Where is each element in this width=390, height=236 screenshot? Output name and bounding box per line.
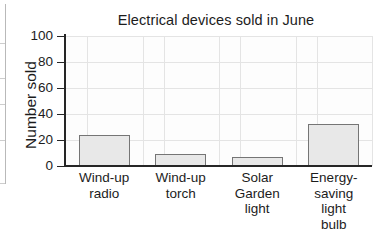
- y-tick-mark: [57, 62, 64, 64]
- x-axis-label-line: Wind-up: [143, 170, 220, 186]
- bar: [308, 124, 359, 166]
- gridline-vertical: [164, 36, 165, 166]
- page-border-tick: [0, 104, 5, 105]
- x-axis-label-line: light: [219, 201, 296, 217]
- gridline-vertical: [240, 36, 241, 166]
- x-axis-label-line: bulb: [296, 217, 373, 233]
- x-axis-label: Energy-savinglightbulb: [296, 170, 373, 232]
- chart-title: Electrical devices sold in June: [60, 12, 372, 28]
- y-tick-label: 100: [0, 28, 53, 43]
- x-axis-label: Wind-uptorch: [143, 170, 220, 201]
- y-axis-line: [64, 34, 66, 167]
- y-tick-label: 40: [0, 106, 53, 121]
- x-axis-label: Wind-upradio: [66, 170, 143, 201]
- page-border-tick: [0, 183, 5, 184]
- gridline-vertical: [143, 36, 144, 166]
- y-tick-label: 80: [0, 54, 53, 69]
- y-tick-mark: [57, 166, 64, 168]
- gridline-vertical: [219, 36, 220, 166]
- x-axis-label-line: torch: [143, 186, 220, 202]
- x-axis-label-line: saving: [296, 186, 373, 202]
- y-tick-label: 0: [0, 158, 53, 173]
- y-tick-mark: [57, 114, 64, 116]
- x-axis-label-line: radio: [66, 186, 143, 202]
- y-tick-mark: [57, 88, 64, 90]
- plot-area: [66, 36, 372, 166]
- x-axis-label-line: Garden: [219, 186, 296, 202]
- bar-chart-figure: Electrical devices sold in June Number s…: [0, 0, 390, 236]
- y-tick-mark: [57, 140, 64, 142]
- gridline-vertical: [296, 36, 297, 166]
- y-tick-label: 60: [0, 80, 53, 95]
- page-border-tick: [0, 78, 5, 79]
- x-axis-label: SolarGardenlight: [219, 170, 296, 217]
- x-axis-line: [64, 165, 372, 167]
- y-tick-label: 20: [0, 132, 53, 147]
- x-axis-label-line: Solar: [219, 170, 296, 186]
- x-axis-label-line: Wind-up: [66, 170, 143, 186]
- y-tick-mark: [57, 36, 64, 38]
- page-border-tick: [0, 43, 5, 44]
- gridline-vertical: [372, 36, 373, 166]
- x-axis-label-line: light: [296, 201, 373, 217]
- bar: [79, 135, 130, 166]
- x-axis-label-line: Energy-: [296, 170, 373, 186]
